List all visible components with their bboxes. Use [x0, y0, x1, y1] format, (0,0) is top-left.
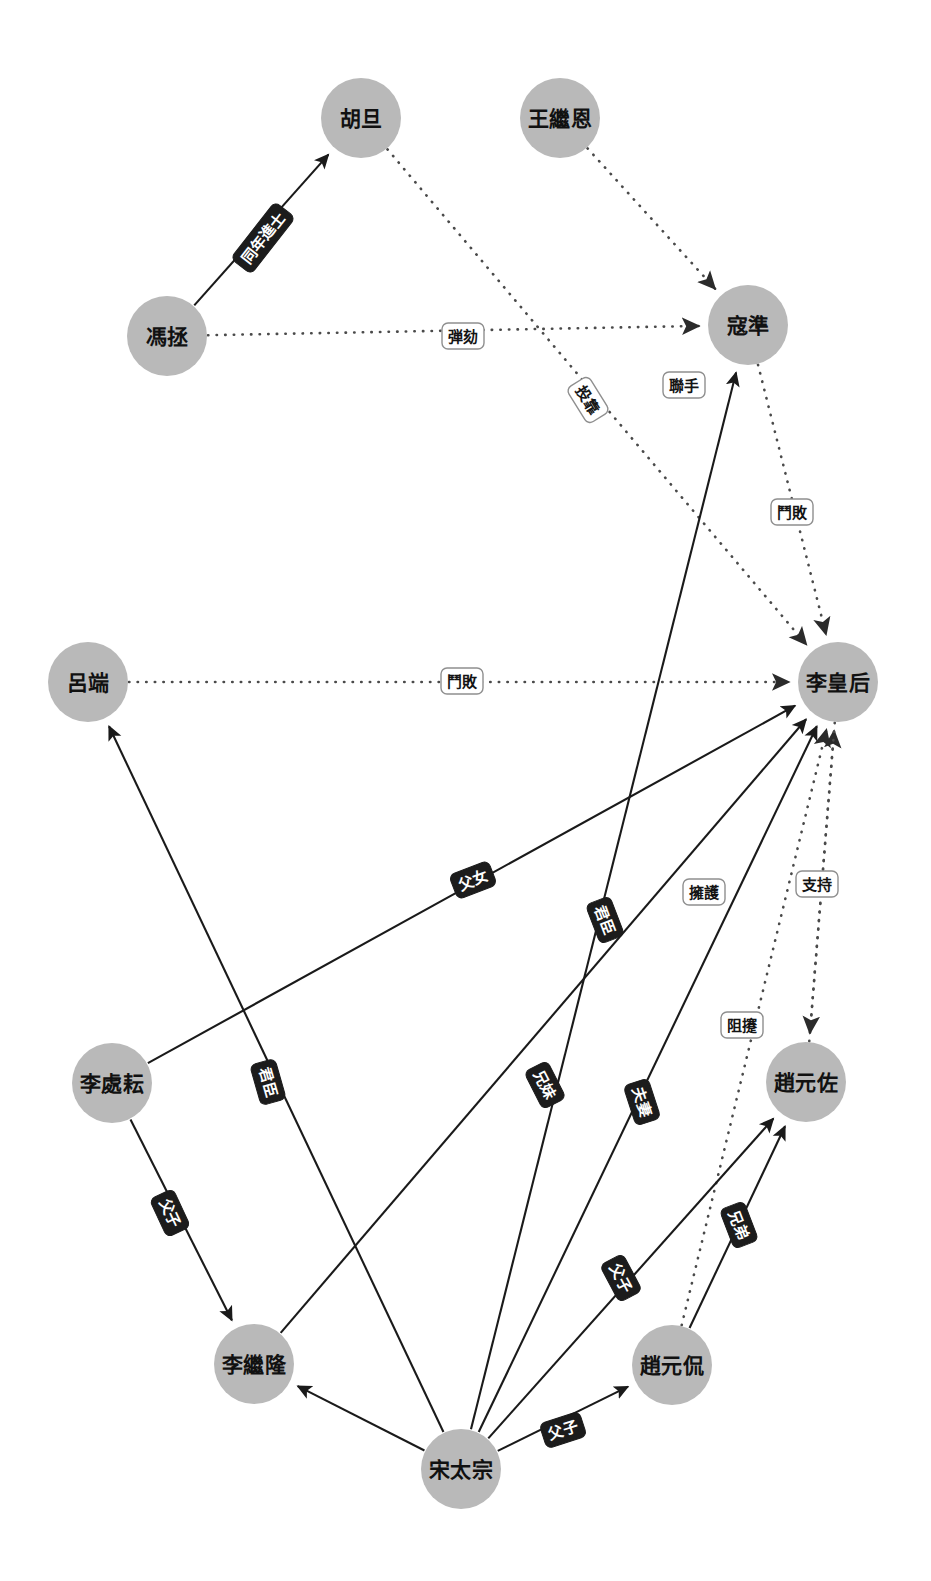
edge-label-text: 弾劾 — [448, 328, 478, 346]
edge-label: 鬥敗 — [771, 499, 813, 525]
edge-label: 父子 — [149, 1188, 190, 1237]
edge-label: 君臣 — [250, 1058, 287, 1106]
graph-svg: 胡旦王繼恩馮拯寇準呂端李皇后李處耘趙元佐李繼隆趙元侃宋太宗 同年進士弾劾投靠聯手… — [0, 0, 931, 1581]
edge-label: 阻攓 — [721, 1012, 763, 1038]
edge-label-text: 鬥敗 — [447, 673, 478, 691]
edge-label: 君臣 — [585, 896, 624, 945]
graph-node[interactable]: 宋太宗 — [421, 1429, 501, 1509]
node-label: 馮拯 — [146, 325, 189, 349]
nodes-layer: 胡旦王繼恩馮拯寇準呂端李皇后李處耘趙元佐李繼隆趙元侃宋太宗 — [48, 78, 878, 1509]
edge-label: 兄妹 — [524, 1060, 566, 1109]
graph-node[interactable]: 馮拯 — [127, 296, 207, 376]
edge-label-text: 支持 — [801, 876, 832, 894]
edge-label: 父子 — [539, 1411, 587, 1449]
node-label: 趙元佐 — [774, 1071, 839, 1095]
node-label: 寇準 — [727, 314, 770, 338]
graph-node[interactable]: 李繼隆 — [214, 1324, 294, 1404]
edge-label: 父女 — [449, 860, 498, 899]
edge-label: 聯手 — [663, 372, 705, 398]
edge-label: 擁護 — [683, 879, 725, 905]
graph-edge — [588, 148, 716, 288]
edge-label: 兄弟 — [719, 1201, 758, 1250]
edge-label: 鬥敗 — [441, 668, 483, 694]
edge-label: 弾劾 — [442, 323, 484, 349]
edge-labels-layer: 同年進士弾劾投靠聯手鬥敗鬥敗父女父子君臣君臣兄妹夫妻擁護支持阻攓父子兄弟父子 — [149, 202, 838, 1449]
node-label: 李皇后 — [805, 671, 871, 695]
graph-node[interactable]: 呂端 — [48, 642, 128, 722]
edge-label: 同年進士 — [231, 202, 296, 275]
node-label: 呂端 — [67, 671, 110, 695]
graph-node[interactable]: 趙元侃 — [632, 1325, 712, 1405]
edge-label: 投靠 — [566, 375, 610, 424]
edge-label-text: 阻攓 — [727, 1017, 758, 1035]
node-label: 李處耘 — [79, 1072, 145, 1096]
edge-label-text: 聯手 — [669, 377, 699, 395]
node-label: 趙元侃 — [640, 1354, 705, 1378]
graph-node[interactable]: 王繼恩 — [520, 78, 600, 158]
graph-edge — [298, 1386, 425, 1450]
relationship-graph-canvas: 胡旦王繼恩馮拯寇準呂端李皇后李處耘趙元佐李繼隆趙元侃宋太宗 同年進士弾劾投靠聯手… — [0, 0, 931, 1581]
graph-node[interactable]: 李處耘 — [72, 1043, 152, 1123]
node-label: 李繼隆 — [221, 1353, 287, 1377]
graph-node[interactable]: 胡旦 — [321, 78, 401, 158]
edge-label-text: 鬥敗 — [777, 504, 808, 522]
edge-label-text: 擁護 — [689, 884, 720, 902]
graph-node[interactable]: 趙元佐 — [766, 1042, 846, 1122]
node-label: 宋太宗 — [429, 1458, 494, 1482]
edge-label: 支持 — [796, 871, 838, 897]
node-label: 胡旦 — [340, 107, 383, 131]
graph-node[interactable]: 寇準 — [708, 285, 788, 365]
graph-node[interactable]: 李皇后 — [798, 642, 878, 722]
node-label: 王繼恩 — [528, 107, 593, 131]
edge-label: 父子 — [600, 1253, 643, 1302]
